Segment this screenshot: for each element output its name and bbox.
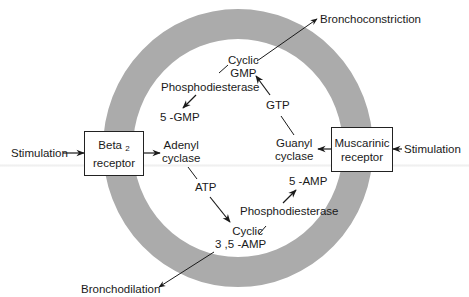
phosphodiesterase-gmp-label: Phosphodiesterase bbox=[161, 81, 259, 94]
stimulation-right-label: Stimulation bbox=[404, 143, 461, 156]
beta2-receptor-line2: receptor bbox=[93, 156, 135, 170]
muscarinic-receptor-line2: receptor bbox=[341, 150, 383, 164]
five-amp-label: 5 -AMP bbox=[289, 175, 327, 188]
guanyl-cyclase-label: Guanyl cyclase bbox=[275, 137, 313, 163]
five-gmp-label: 5 -GMP bbox=[160, 111, 200, 124]
atp-label: ATP bbox=[195, 181, 217, 194]
gtp-label: GTP bbox=[266, 99, 290, 112]
beta2-receptor-line1: Beta 2 bbox=[98, 138, 129, 156]
muscarinic-receptor-box: Muscarinic receptor bbox=[331, 127, 393, 172]
muscarinic-receptor-line1: Muscarinic bbox=[335, 136, 390, 150]
bronchodilation-label: Bronchodilation bbox=[81, 283, 160, 296]
cyclic-amp-label: Cyclic 3 ,5 -AMP bbox=[215, 225, 266, 251]
beta2-receptor-box: Beta 2 receptor bbox=[84, 131, 144, 176]
diagram-graphics bbox=[0, 0, 469, 297]
arrow-pde-to-5gmp bbox=[183, 95, 196, 108]
line-cgmp-to-pde bbox=[219, 65, 228, 73]
arrow-pde-to-5amp bbox=[283, 190, 296, 203]
stimulation-left-label: Stimulation bbox=[11, 147, 68, 160]
phosphodiesterase-amp-label: Phosphodiesterase bbox=[240, 205, 338, 218]
diagram-canvas: Stimulation Beta 2 receptor Adenyl cycla… bbox=[0, 0, 469, 297]
arrow-atp-to-camp bbox=[210, 197, 230, 222]
line-guanyl-to-gtp bbox=[281, 116, 294, 135]
adenyl-cyclase-label: Adenyl cyclase bbox=[162, 139, 200, 165]
line-adenyl-to-atp bbox=[188, 167, 197, 179]
cyclic-gmp-label: Cyclic GMP bbox=[228, 54, 259, 80]
bronchoconstriction-label: Bronchoconstriction bbox=[320, 13, 421, 26]
